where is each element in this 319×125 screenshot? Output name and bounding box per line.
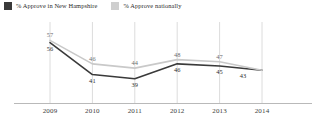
- series-lines: [50, 40, 262, 78]
- data-label-nh-2012: 46: [174, 66, 181, 73]
- data-label-national-2013: 47: [216, 53, 223, 60]
- x-axis-labels: 200920102011201220132014: [0, 106, 319, 122]
- data-label-national-2012: 48: [174, 51, 181, 58]
- x-tick-label-2009: 2009: [43, 106, 58, 116]
- data-label-nh-2013: 45: [216, 68, 223, 75]
- data-label-national-2011: 44: [132, 59, 139, 66]
- x-tick-label-2014: 2014: [255, 106, 270, 116]
- legend-item-national: % Approve nationally: [111, 2, 181, 10]
- legend-swatch-icon: [111, 2, 119, 10]
- series-line-nh: [50, 43, 262, 79]
- x-tick-label-2010: 2010: [85, 106, 100, 116]
- legend-swatch-icon: [4, 2, 12, 10]
- approval-line-chart: % Approve in New Hampshire % Approve nat…: [0, 0, 319, 125]
- plot-area: [0, 14, 319, 106]
- chart-legend: % Approve in New Hampshire % Approve nat…: [4, 2, 182, 10]
- gridlines: [50, 22, 262, 104]
- data-label-nh-2010: 41: [89, 77, 96, 84]
- plot-svg: [0, 14, 319, 106]
- legend-item-nh: % Approve in New Hampshire: [4, 2, 97, 10]
- legend-label-nh: % Approve in New Hampshire: [16, 2, 97, 10]
- data-label-national-2009: 57: [47, 31, 54, 38]
- data-label-2014: 43: [240, 72, 247, 79]
- data-label-national-2010: 46: [89, 55, 96, 62]
- x-tick-label-2012: 2012: [170, 106, 185, 116]
- legend-label-national: % Approve nationally: [123, 2, 181, 10]
- x-tick-label-2011: 2011: [128, 106, 142, 116]
- data-label-nh-2011: 39: [132, 81, 139, 88]
- data-label-nh-2009: 56: [47, 45, 54, 52]
- x-tick-label-2013: 2013: [212, 106, 227, 116]
